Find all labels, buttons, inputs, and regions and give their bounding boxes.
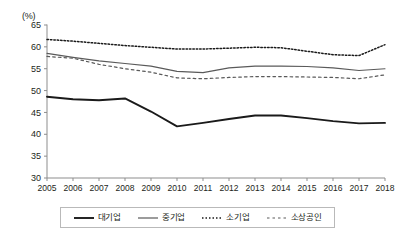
x-axis-tick-label: 2018 [376, 183, 395, 193]
y-axis-tick-label: 40 [31, 129, 41, 139]
legend-item-daegieop[interactable]: 대기업 [74, 213, 121, 222]
legend-label-daegieop: 대기업 [98, 213, 121, 222]
legend-item-sogieop[interactable]: 소기업 [202, 213, 249, 222]
y-axis-tick-label: 35 [31, 151, 41, 161]
legend-item-junggieop[interactable]: 중기업 [138, 213, 185, 222]
x-axis-tick-label: 2009 [142, 183, 161, 193]
plot-area: 3035404550556065 20052006200720082009201… [0, 0, 395, 205]
x-axis-tick-label: 2006 [64, 183, 83, 193]
series-group [47, 39, 385, 126]
chart-legend: 대기업 중기업 소기업 소상공인 [60, 207, 335, 228]
x-axis-tick-label: 2012 [220, 183, 239, 193]
x-axis-tick-label: 2005 [38, 183, 57, 193]
x-axis-tick-label: 2010 [168, 183, 187, 193]
legend-item-sosanggongin[interactable]: 소상공인 [267, 213, 322, 222]
y-axis-tick-label: 45 [31, 108, 41, 118]
x-axis-group: 2005200620072008200920102011201220132014… [38, 178, 395, 193]
legend-swatch-dashed [267, 214, 287, 222]
legend-swatch-solid-thick [74, 214, 94, 222]
x-axis-tick-label: 2007 [90, 183, 109, 193]
y-axis-tick-label: 65 [31, 20, 41, 30]
series-line-0 [47, 97, 385, 127]
x-axis-tick-label: 2016 [324, 183, 343, 193]
x-axis-tick-label: 2008 [116, 183, 135, 193]
legend-label-sogieop: 소기업 [226, 213, 249, 222]
y-axis-tick-label: 30 [31, 173, 41, 183]
x-axis-tick-label: 2014 [272, 183, 291, 193]
legend-label-sosanggongin: 소상공인 [291, 213, 322, 222]
x-axis-tick-label: 2015 [298, 183, 317, 193]
y-axis-group: 3035404550556065 [31, 20, 47, 183]
legend-label-junggieop: 중기업 [162, 213, 185, 222]
y-axis-tick-label: 60 [31, 42, 41, 52]
line-chart: (%) 3035404550556065 2005200620072008200… [0, 0, 395, 240]
legend-swatch-dotted [202, 214, 222, 222]
series-line-2 [47, 39, 385, 55]
y-axis-tick-label: 50 [31, 86, 41, 96]
y-axis-tick-label: 55 [31, 64, 41, 74]
x-axis-tick-label: 2011 [194, 183, 213, 193]
legend-swatch-solid-thin [138, 214, 158, 222]
series-line-1 [47, 53, 385, 72]
x-axis-tick-label: 2017 [350, 183, 369, 193]
x-axis-tick-label: 2013 [246, 183, 265, 193]
